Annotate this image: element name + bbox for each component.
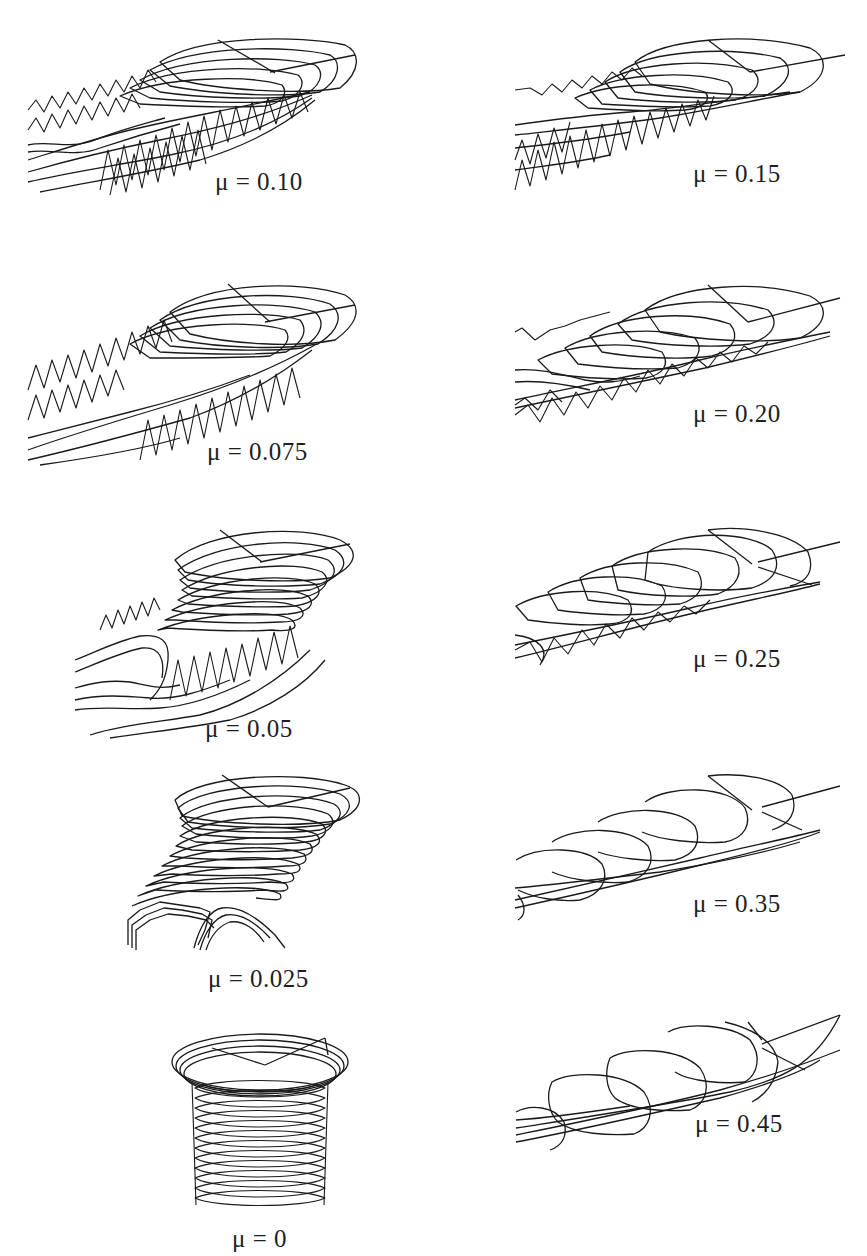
panel-label: μ = 0.05	[205, 715, 293, 743]
panel-mu-0.075: μ = 0.075	[0, 260, 440, 470]
wake-wireframe-plot	[110, 760, 390, 990]
panel-mu-0.10: μ = 0.10	[0, 0, 440, 200]
wake-wireframe-plot	[160, 1010, 400, 1210]
panel-label: μ = 0.25	[693, 645, 781, 673]
panel-label: μ = 0.35	[693, 890, 781, 918]
panel-mu-0: μ = 0	[160, 1010, 400, 1210]
panel-label: μ = 0.025	[208, 965, 309, 993]
wake-wireframe-plot	[50, 510, 390, 740]
panel-mu-0.35: μ = 0.35	[490, 760, 867, 960]
panel-label: μ = 0.45	[695, 1110, 783, 1138]
wake-wireframe-plot	[490, 510, 867, 710]
panel-mu-0.45: μ = 0.45	[500, 1010, 867, 1200]
wake-wireframe-plot	[490, 0, 867, 200]
panel-mu-0.25: μ = 0.25	[490, 510, 867, 710]
panel-label: μ = 0.10	[215, 168, 303, 196]
panel-mu-0.15: μ = 0.15	[490, 0, 867, 200]
panel-mu-0.025: μ = 0.025	[110, 760, 390, 990]
wake-wireframe-plot	[490, 270, 867, 470]
panel-label: μ = 0	[232, 1225, 287, 1253]
panel-label: μ = 0.20	[693, 400, 781, 428]
panel-label: μ = 0.15	[693, 160, 781, 188]
wake-wireframe-plot	[500, 1010, 867, 1200]
panel-mu-0.20: μ = 0.20	[490, 270, 867, 470]
panel-mu-0.05: μ = 0.05	[50, 510, 390, 740]
wake-wireframe-plot	[490, 760, 867, 960]
panel-label: μ = 0.075	[207, 438, 308, 466]
